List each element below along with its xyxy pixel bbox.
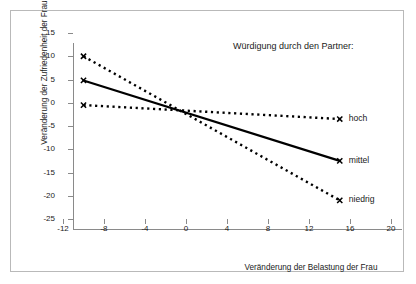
chart-frame: Veränderung der Zufriedenheit der Frau V… (10, 10, 404, 272)
series-line-hoch (84, 105, 340, 119)
series-line-mittel (84, 80, 340, 160)
series-label-hoch: hoch (349, 114, 368, 123)
series-label-niedrig: niedrig (349, 195, 375, 204)
series-label-mittel: mittel (349, 156, 370, 165)
series-line-niedrig (84, 56, 340, 200)
marker-x-niedrig (337, 198, 342, 203)
plot-lines (11, 11, 405, 273)
chart-figure: Veränderung der Zufriedenheit der Frau V… (0, 0, 416, 284)
marker-x-hoch (337, 116, 342, 121)
